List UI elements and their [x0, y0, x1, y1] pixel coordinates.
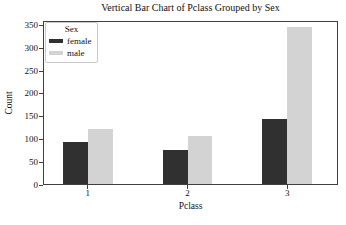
bar-chart-figure: Vertical Bar Chart of Pclass Grouped by …: [0, 0, 346, 225]
y-axis-tick-label: 50: [8, 157, 38, 168]
legend-entries: femalemale: [49, 35, 94, 59]
legend-item-female: female: [49, 35, 94, 47]
y-axis-tick-label: 300: [8, 43, 38, 54]
y-axis-tick-label: 100: [8, 134, 38, 145]
y-axis-tick-label: 0: [8, 180, 38, 191]
y-axis-tick: [39, 71, 43, 72]
y-axis-tick: [39, 93, 43, 94]
x-axis-tick-label: 1: [76, 188, 100, 198]
y-axis-tick-label: 250: [8, 66, 38, 77]
y-axis-tick: [39, 116, 43, 117]
legend-title: Sex: [49, 24, 94, 35]
legend-label-female: female: [67, 36, 91, 47]
legend-swatch-male: [49, 51, 63, 56]
y-axis-tick: [39, 185, 43, 186]
legend-label-male: male: [67, 48, 85, 59]
x-axis-tick-label: 2: [176, 188, 200, 198]
y-axis-tick: [39, 162, 43, 163]
y-axis-tick-label: 350: [8, 20, 38, 31]
legend-swatch-female: [49, 39, 63, 44]
y-axis-tick-label: 200: [8, 88, 38, 99]
y-axis-tick: [39, 139, 43, 140]
y-axis-tick: [39, 25, 43, 26]
legend-item-male: male: [49, 47, 94, 59]
x-axis-tick-label: 3: [275, 188, 299, 198]
legend: Sex femalemale: [45, 22, 98, 63]
y-axis-tick-label: 150: [8, 111, 38, 122]
y-axis-tick: [39, 48, 43, 49]
